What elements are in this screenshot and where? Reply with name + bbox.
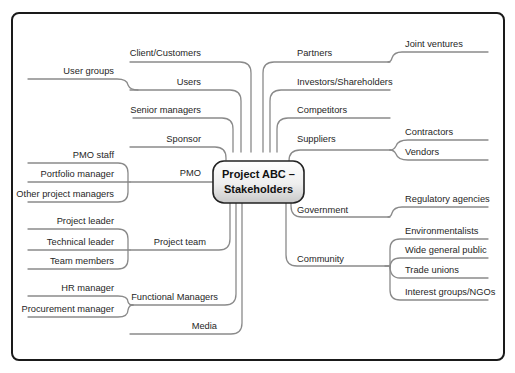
- node-regulatory-agencies[interactable]: Regulatory agencies: [405, 194, 490, 204]
- node-joint-ventures[interactable]: Joint ventures: [405, 39, 463, 49]
- node-sponsor[interactable]: Sponsor: [166, 134, 201, 144]
- node-government[interactable]: Government: [297, 205, 349, 215]
- center-title-line1: Project ABC –: [222, 168, 295, 180]
- node-partners[interactable]: Partners: [297, 48, 332, 58]
- node-community[interactable]: Community: [297, 254, 344, 264]
- node-other-project-managers[interactable]: Other project managers: [16, 189, 114, 199]
- node-procurement-manager[interactable]: Procurement manager: [22, 304, 115, 314]
- node-vendors[interactable]: Vendors: [405, 147, 439, 157]
- node-technical-leader[interactable]: Technical leader: [47, 237, 114, 247]
- node-contractors[interactable]: Contractors: [405, 127, 453, 137]
- node-trade-unions[interactable]: Trade unions: [405, 265, 459, 275]
- center-node[interactable]: Project ABC – Stakeholders: [213, 161, 304, 203]
- node-interest-groups-ngos[interactable]: Interest groups/NGOs: [405, 287, 496, 297]
- mind-map-canvas: Project ABC – Stakeholders Client/Custom…: [0, 0, 515, 373]
- node-pmo[interactable]: PMO: [180, 168, 201, 178]
- node-user-groups[interactable]: User groups: [63, 66, 114, 76]
- node-portfolio-manager[interactable]: Portfolio manager: [41, 169, 114, 179]
- node-media[interactable]: Media: [192, 321, 218, 331]
- node-team-members[interactable]: Team members: [50, 256, 114, 266]
- node-competitors[interactable]: Competitors: [297, 105, 347, 115]
- node-hr-manager[interactable]: HR manager: [61, 283, 114, 293]
- node-environmentalists[interactable]: Environmentalists: [405, 226, 479, 236]
- node-users[interactable]: Users: [177, 77, 202, 87]
- node-project-team[interactable]: Project team: [154, 237, 206, 247]
- node-project-leader[interactable]: Project leader: [57, 216, 114, 226]
- node-investors-shareholders[interactable]: Investors/Shareholders: [297, 77, 393, 87]
- node-suppliers[interactable]: Suppliers: [297, 134, 336, 144]
- node-functional-managers[interactable]: Functional Managers: [131, 292, 218, 302]
- node-wide-general-public[interactable]: Wide general public: [405, 245, 487, 255]
- node-senior-managers[interactable]: Senior managers: [130, 105, 201, 115]
- center-title-line2: Stakeholders: [224, 183, 293, 195]
- node-client-customers[interactable]: Client/Customers: [130, 48, 202, 58]
- node-pmo-staff[interactable]: PMO staff: [73, 150, 115, 160]
